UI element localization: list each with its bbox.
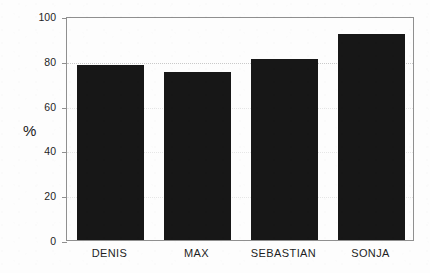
bar xyxy=(338,34,405,240)
y-axis-tick-label: 40 xyxy=(16,145,56,157)
y-axis-tick-label: 100 xyxy=(16,11,56,23)
y-axis-title: % xyxy=(10,122,50,139)
bar-chart-figure: % 020406080100 DENISMAXSEBASTIANSONJA xyxy=(0,0,430,273)
x-axis-category-label: SONJA xyxy=(311,247,430,259)
bar xyxy=(77,65,144,240)
y-axis-tick-label: 80 xyxy=(16,56,56,68)
y-axis-tick xyxy=(62,242,67,243)
bar xyxy=(164,72,231,240)
plot-area xyxy=(66,17,414,241)
bar-series xyxy=(67,18,413,240)
bar xyxy=(251,59,318,240)
y-axis-tick-label: 0 xyxy=(16,235,56,247)
y-axis-tick-label: 20 xyxy=(16,190,56,202)
y-axis-tick-label: 60 xyxy=(16,101,56,113)
